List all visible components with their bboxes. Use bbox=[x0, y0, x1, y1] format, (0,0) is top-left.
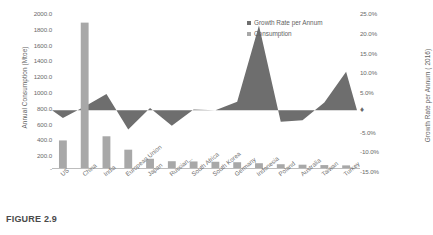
legend-label: Growth Rate per Annum bbox=[254, 19, 323, 26]
y-right-tick: -10.0% bbox=[360, 148, 379, 155]
y-axis-left-labels: 2000.0 1800.0 1600.0 1400.0 1200.0 1000.… bbox=[20, 10, 52, 172]
legend-item-consumption: Consumption bbox=[247, 30, 323, 37]
y-left-tick: 1400.0 bbox=[34, 57, 52, 64]
legend-swatch-icon bbox=[247, 32, 251, 36]
y-left-tick: 2000.0 bbox=[34, 10, 52, 17]
y-left-tick: 400.0 bbox=[37, 136, 52, 143]
consumption-bar bbox=[103, 136, 111, 168]
y-left-tick: 200.0 bbox=[37, 152, 52, 159]
growth-rate-area-series bbox=[52, 26, 357, 130]
x-axis-category-labels: USChinaIndiaEuropean UnionJapanRussian..… bbox=[52, 170, 362, 216]
figure-caption: FIGURE 2.9 bbox=[6, 214, 57, 224]
y-left-tick: 600.0 bbox=[37, 121, 52, 128]
figure-container: Annual Consumption (Mtoe) Growth Rate pe… bbox=[0, 0, 433, 235]
y-right-tick: 5.0% bbox=[360, 89, 374, 96]
y-left-tick: 1600.0 bbox=[34, 42, 52, 49]
y-left-tick: 1200.0 bbox=[34, 73, 52, 80]
chart-legend: Growth Rate per Annum Consumption bbox=[247, 19, 323, 41]
y-right-tick: 25.0% bbox=[360, 10, 377, 17]
legend-item-growth-rate: Growth Rate per Annum bbox=[247, 19, 323, 26]
legend-label: Consumption bbox=[254, 30, 292, 37]
legend-swatch-icon bbox=[247, 21, 251, 25]
y-right-tick: 15.0% bbox=[360, 50, 377, 57]
y-axis-right-title: Growth Rate per Annum ( 2016) bbox=[424, 21, 431, 171]
consumption-bar bbox=[59, 140, 67, 168]
y-left-tick: 800.0 bbox=[37, 105, 52, 112]
y-left-tick: 1800.0 bbox=[34, 26, 52, 33]
growth-rate-area bbox=[52, 26, 357, 130]
y-right-tick: 10.0% bbox=[360, 69, 377, 76]
y-axis-right-labels: 25.0% 20.0% 15.0% 10.0% 5.0% ♦ -5.0% -10… bbox=[360, 10, 396, 172]
y-right-tick: 20.0% bbox=[360, 30, 377, 37]
consumption-bar-series bbox=[59, 23, 350, 168]
y-left-tick: 1000.0 bbox=[34, 89, 52, 96]
y-right-tick: -5.0% bbox=[360, 129, 376, 136]
y-right-tick-zero: ♦ bbox=[360, 106, 364, 113]
y-right-tick: -15.0% bbox=[360, 168, 379, 175]
consumption-bar bbox=[81, 23, 89, 168]
